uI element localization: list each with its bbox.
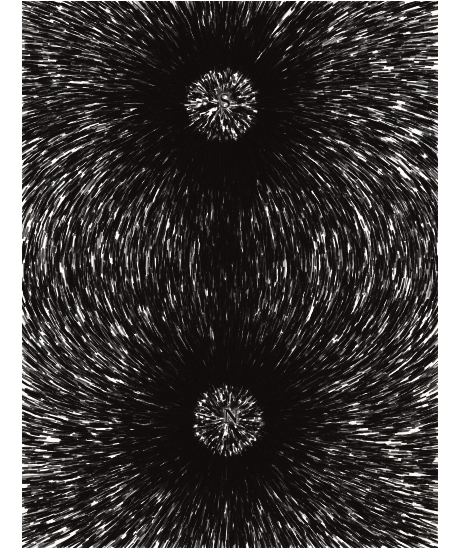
- iron-filings-figure: S N: [0, 0, 455, 560]
- magnetic-field-filings: [22, 1, 438, 548]
- filings-plate: S N: [22, 1, 438, 548]
- north-pole-label: N: [218, 406, 245, 433]
- south-pole-label: S: [211, 90, 239, 118]
